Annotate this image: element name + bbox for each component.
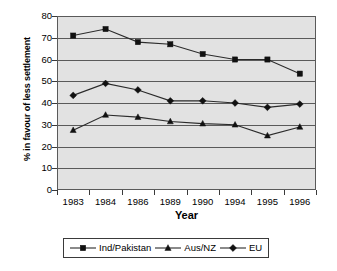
x-axis-label: 1996	[278, 197, 322, 207]
data-point-square	[232, 57, 237, 62]
legend-entry: EU	[220, 242, 262, 254]
legend-key-square	[70, 242, 96, 254]
legend-key-diamond	[220, 242, 246, 254]
x-axis-tick	[187, 190, 188, 195]
y-axis-label: 40	[12, 98, 52, 108]
y-axis-label: 80	[12, 11, 52, 21]
y-axis-label: 50	[12, 76, 52, 86]
y-axis-label: 70	[12, 33, 52, 43]
y-axis-label: 0	[12, 185, 52, 195]
x-axis-tick	[284, 190, 285, 195]
series-layer	[57, 16, 316, 190]
data-point-square	[71, 33, 76, 38]
data-point-square	[200, 51, 205, 56]
data-point-square	[168, 42, 173, 47]
series-ind-pakistan	[71, 26, 303, 76]
legend-label: Ind/Pakistan	[99, 243, 151, 253]
data-point-diamond	[102, 80, 109, 87]
data-point-triangle	[103, 112, 109, 118]
legend-label: EU	[249, 243, 262, 253]
y-axis-label: 20	[12, 142, 52, 152]
chart-legend: Ind/PakistanAus/NZEU	[63, 238, 269, 258]
data-point-square	[265, 57, 270, 62]
data-point-square	[80, 245, 85, 250]
series-line	[73, 115, 300, 136]
data-point-diamond	[70, 92, 77, 99]
y-axis-label: 30	[12, 120, 52, 130]
series-aus-nz	[70, 112, 303, 138]
data-point-diamond	[199, 97, 206, 104]
series-line	[73, 29, 300, 74]
data-point-diamond	[167, 97, 174, 104]
x-axis-tick	[57, 190, 58, 195]
data-point-diamond	[264, 104, 271, 111]
data-point-square	[135, 40, 140, 45]
data-point-diamond	[135, 87, 142, 94]
x-axis-tick	[154, 190, 155, 195]
y-axis-label: 60	[12, 55, 52, 65]
series-line	[73, 83, 300, 107]
data-point-diamond	[232, 100, 239, 107]
legend-entry: Aus/NZ	[155, 242, 216, 254]
line-chart: % in favour of less settlement 807060504…	[0, 0, 337, 271]
x-axis-tick	[89, 190, 90, 195]
data-point-square	[103, 26, 108, 31]
data-point-square	[297, 71, 302, 76]
x-axis-title: Year	[57, 209, 316, 221]
y-axis-label: 10	[12, 163, 52, 173]
x-axis-tick	[219, 190, 220, 195]
data-point-diamond	[229, 244, 236, 251]
series-eu	[70, 80, 303, 111]
legend-key-triangle	[155, 242, 181, 254]
x-axis-tick	[316, 190, 317, 195]
x-axis-tick	[251, 190, 252, 195]
x-axis-tick	[122, 190, 123, 195]
legend-entry: Ind/Pakistan	[70, 242, 151, 254]
legend-label: Aus/NZ	[184, 243, 216, 253]
data-point-triangle	[297, 124, 303, 130]
data-point-diamond	[296, 101, 303, 108]
